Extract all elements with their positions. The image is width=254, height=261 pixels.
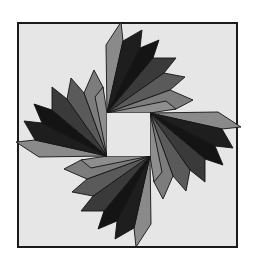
center-square: [107, 113, 150, 156]
pinwheel-figure: [0, 0, 254, 261]
